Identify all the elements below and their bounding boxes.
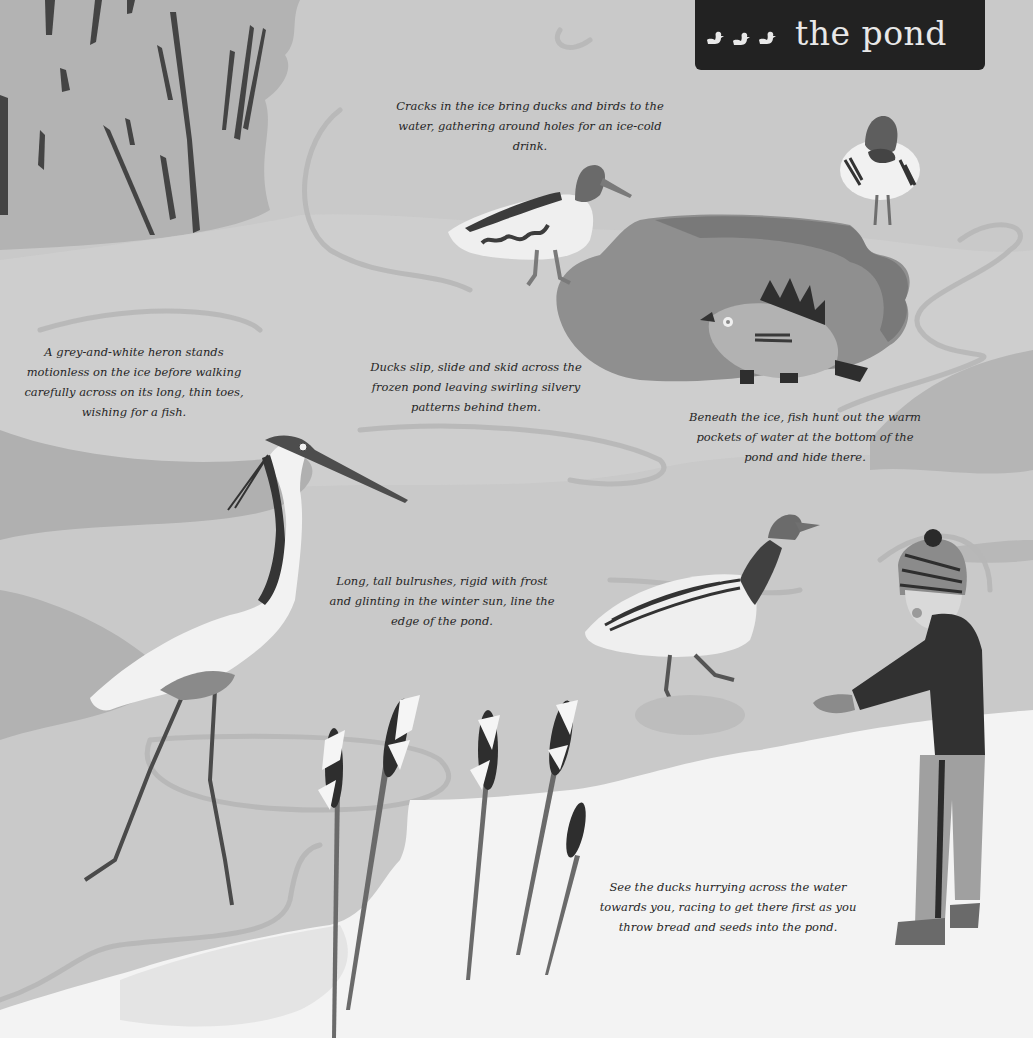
- caption-feeding: See the ducks hurrying across the water …: [590, 877, 866, 937]
- caption-bulrushes: Long, tall bulrushes, rigid with frost a…: [326, 571, 558, 631]
- caption-cracks: Cracks in the ice bring ducks and birds …: [380, 96, 680, 156]
- duckling-icon: [705, 30, 729, 46]
- caption-ducks-slide: Ducks slip, slide and skid across the fr…: [365, 357, 587, 417]
- caption-fish: Beneath the ice, fish hunt out the warm …: [682, 407, 928, 467]
- duckling-icon: [757, 30, 781, 46]
- duckling-icon: [731, 30, 755, 46]
- reed-bank: [0, 0, 300, 250]
- book-page: the pond Cracks in the ice bring ducks a…: [0, 0, 1033, 1038]
- caption-heron: A grey-and-white heron stands motionless…: [18, 342, 250, 422]
- three-ducklings-icon: [705, 30, 781, 46]
- page-title-banner: the pond: [695, 0, 985, 70]
- page-title: the pond: [795, 17, 947, 50]
